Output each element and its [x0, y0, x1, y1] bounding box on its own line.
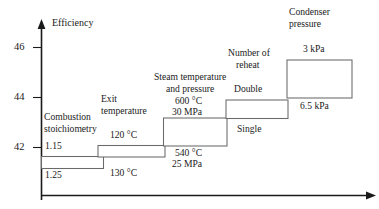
category-label-reheat-line1: Number of: [228, 48, 270, 59]
category-label-condenser-line1: Condenser: [289, 7, 330, 18]
x-axis: [42, 192, 377, 200]
box-condenser-pressure: [287, 60, 352, 98]
value-label-exit-temperature-low: 130 °C: [110, 168, 137, 179]
category-label-steam-line2: and pressure: [166, 84, 214, 95]
category-label-combustion-stoichiometry-line2: stoichiometry: [44, 124, 97, 135]
value-label-steam-high-pressure: 30 MPa: [172, 107, 202, 118]
value-label-condenser-high: 3 kPa: [303, 44, 325, 55]
box-steam-temperature-pressure: [164, 118, 228, 146]
category-label-combustion-stoichiometry-line1: Combustion: [44, 112, 91, 123]
category-label-exit-temperature-line2: temperature: [101, 106, 147, 117]
box-combustion-stoichiometry: [42, 157, 104, 169]
value-label-condenser-low: 6.5 kPa: [300, 101, 329, 112]
category-label-condenser-line2: pressure: [289, 19, 321, 30]
category-label-exit-temperature-line1: Exit: [101, 94, 117, 105]
value-label-combustion-high: 1.15: [45, 141, 62, 152]
value-label-combustion-low: 1.25: [45, 170, 62, 181]
value-label-reheat-low: Single: [237, 124, 262, 135]
value-label-exit-temperature-high: 120 °C: [110, 130, 137, 141]
y-axis-title: Efficiency: [52, 17, 93, 28]
sensitivity-staircase-chart: Efficiency 46 44 42 Combustion stoichiom…: [0, 0, 379, 209]
category-label-steam-line1: Steam temperature: [154, 72, 226, 83]
y-axis-ticks: [33, 48, 42, 148]
value-label-reheat-high: Double: [234, 84, 262, 95]
y-tick-label-46: 46: [14, 41, 25, 53]
y-tick-label-42: 42: [14, 141, 25, 153]
y-tick-label-44: 44: [14, 91, 25, 103]
box-exit-temperature: [98, 146, 165, 158]
box-number-of-reheat: [226, 100, 288, 119]
category-label-reheat-line2: reheat: [236, 60, 259, 71]
value-label-steam-low-pressure: 25 MPa: [172, 159, 202, 170]
